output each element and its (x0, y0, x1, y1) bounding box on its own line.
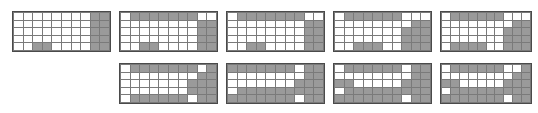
grid-cell (504, 95, 512, 102)
grid-cell (412, 13, 421, 20)
grid-cell (354, 95, 363, 102)
grid-cell (345, 65, 354, 72)
grid-cell (460, 95, 468, 102)
grid-cell (495, 88, 503, 95)
grid-cell (305, 95, 314, 102)
grid-cell (228, 65, 237, 72)
grid-cell (451, 65, 459, 72)
grid-cell (169, 28, 178, 35)
grid-cell (421, 88, 430, 95)
grid-cell (131, 65, 140, 72)
grid-cell (383, 95, 392, 102)
grid-cell (266, 43, 275, 50)
grid-cell (354, 36, 363, 43)
grid-cell (43, 36, 52, 43)
grid-cell (421, 73, 430, 80)
grid-cell (305, 88, 314, 95)
grid-cell (345, 36, 354, 43)
grid-cell (305, 80, 314, 87)
grid-cell (460, 73, 468, 80)
grid-cell (314, 65, 323, 72)
grid-cell (442, 80, 450, 87)
grid-cell (131, 43, 140, 50)
grid-cell (354, 65, 363, 72)
grid-cell (295, 65, 304, 72)
grid-cell (257, 36, 266, 43)
grid-cell (207, 95, 216, 102)
grid-cell (393, 28, 402, 35)
grid-cell (52, 13, 61, 20)
grid-cell (487, 21, 495, 28)
grid-cell (266, 80, 275, 87)
grid-cell (286, 65, 295, 72)
grid-cell (188, 80, 197, 87)
grid-cell (442, 13, 450, 20)
grid-cell (207, 65, 216, 72)
grid-cell (442, 65, 450, 72)
grid-cell (228, 88, 237, 95)
grid-cell (421, 95, 430, 102)
grid-cell (421, 36, 430, 43)
grid-cell (179, 88, 188, 95)
grid-cell (364, 13, 373, 20)
grid-cell (188, 28, 197, 35)
grid-cell (354, 73, 363, 80)
grid-cell (131, 21, 140, 28)
grid-cell (364, 65, 373, 72)
grid-cell (198, 28, 207, 35)
grid-cell (207, 36, 216, 43)
grid-cell (487, 73, 495, 80)
grid-cell (198, 21, 207, 28)
grid-cell (276, 36, 285, 43)
grid-cell (495, 43, 503, 50)
grid-cell (513, 13, 521, 20)
grid-cell (383, 65, 392, 72)
grid-cell (159, 73, 168, 80)
grid-cell (469, 95, 477, 102)
grid-cell (345, 13, 354, 20)
grid-cell (513, 36, 521, 43)
grid-cell (121, 13, 130, 20)
grid-cell (198, 80, 207, 87)
grid-cell (495, 13, 503, 20)
grid-cell (487, 88, 495, 95)
grid-cell (495, 95, 503, 102)
grid-cell (478, 13, 486, 20)
grid-cell (207, 13, 216, 20)
grid-cell (364, 88, 373, 95)
grid-cell (198, 13, 207, 20)
grid-cell (393, 36, 402, 43)
grid-cell (247, 21, 256, 28)
grid-cell (478, 65, 486, 72)
grid-cell (345, 95, 354, 102)
grid-cell (469, 88, 477, 95)
grid-cell (469, 13, 477, 20)
grid-cell (402, 21, 411, 28)
grid-cell (451, 95, 459, 102)
grid-cell (373, 28, 382, 35)
grid-cell (335, 43, 344, 50)
grid-cell (276, 80, 285, 87)
grid-panel (119, 63, 218, 104)
grid-cell (513, 43, 521, 50)
grid-cell (295, 28, 304, 35)
grid-cell (383, 43, 392, 50)
grid-cell (266, 21, 275, 28)
grid-cell (335, 28, 344, 35)
grid-cell (286, 73, 295, 80)
grid-cell (207, 80, 216, 87)
grid-cell (522, 36, 530, 43)
grid-cell (373, 73, 382, 80)
grid-cell (451, 36, 459, 43)
grid-cell (188, 88, 197, 95)
grid-cell (14, 28, 23, 35)
grid-cell (373, 80, 382, 87)
grid-cell (247, 65, 256, 72)
grid-cell (478, 95, 486, 102)
grid-cell (364, 95, 373, 102)
grid-cell (412, 28, 421, 35)
grid-cell (238, 65, 247, 72)
grid-cell (295, 43, 304, 50)
grid-cell (460, 80, 468, 87)
grid-cell (402, 13, 411, 20)
